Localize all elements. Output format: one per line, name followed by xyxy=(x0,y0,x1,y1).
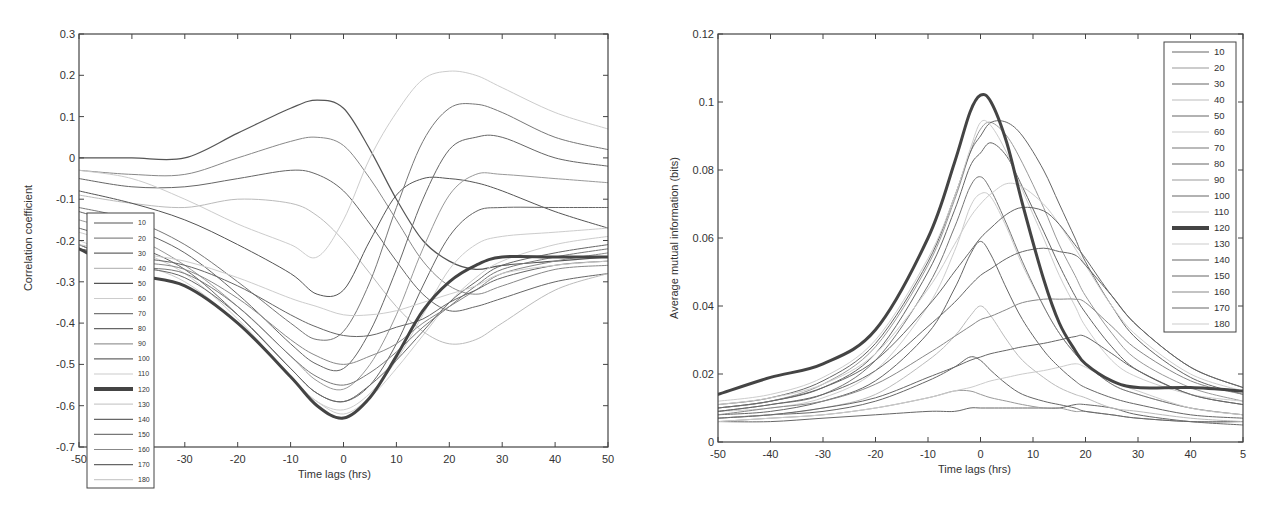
x-tick-label: 20 xyxy=(443,453,455,465)
x-tick-label: -50 xyxy=(710,448,726,460)
svg-text:170: 170 xyxy=(1214,302,1230,313)
svg-text:10: 10 xyxy=(1214,46,1225,57)
series-line-70 xyxy=(79,104,608,341)
svg-text:30: 30 xyxy=(138,250,146,257)
y-tick-label: -0.5 xyxy=(56,358,75,370)
svg-text:90: 90 xyxy=(138,340,146,347)
ticks: -50-40-30-20-10010203040500.020.040.060.… xyxy=(693,28,1246,460)
svg-text:40: 40 xyxy=(1214,94,1225,105)
svg-text:120: 120 xyxy=(138,386,150,393)
x-tick-label: 10 xyxy=(1027,448,1039,460)
y-tick-label: -0.1 xyxy=(56,193,75,205)
series-line-60 xyxy=(79,71,608,258)
x-tick-label: -30 xyxy=(177,453,193,465)
x-tick-label: -10 xyxy=(920,448,936,460)
x-tick-label: -10 xyxy=(283,453,299,465)
x-tick-label: -20 xyxy=(868,448,884,460)
y-tick-label: 0.3 xyxy=(60,28,75,40)
svg-text:160: 160 xyxy=(138,446,150,453)
x-tick-label: 0 xyxy=(977,448,983,460)
x-axis-label: Time lags (hrs) xyxy=(298,468,371,480)
y-tick-label: 0.08 xyxy=(693,164,714,176)
svg-text:70: 70 xyxy=(138,310,146,317)
series-line-100 xyxy=(79,207,608,402)
y-tick-label: -0.6 xyxy=(56,400,75,412)
x-tick-label: 0 xyxy=(340,453,346,465)
x-tick-label: 20 xyxy=(1079,448,1091,460)
y-tick-label: 0.1 xyxy=(699,96,714,108)
svg-text:150: 150 xyxy=(1214,270,1230,281)
x-tick-label: -30 xyxy=(815,448,831,460)
x-tick-label: 40 xyxy=(1184,448,1196,460)
svg-text:40: 40 xyxy=(138,265,146,272)
mutual-information-chart-panel: -50-40-30-20-10010203040500.020.040.060.… xyxy=(640,0,1272,507)
svg-text:20: 20 xyxy=(1214,62,1225,73)
svg-text:70: 70 xyxy=(1214,142,1225,153)
y-tick-label: 0 xyxy=(708,436,714,448)
x-tick-label: 30 xyxy=(1132,448,1144,460)
svg-text:60: 60 xyxy=(1214,126,1225,137)
svg-text:170: 170 xyxy=(138,461,150,468)
svg-text:90: 90 xyxy=(1214,174,1225,185)
y-tick-label: 0.2 xyxy=(60,69,75,81)
svg-text:180: 180 xyxy=(1214,318,1230,329)
svg-text:100: 100 xyxy=(138,355,150,362)
mutual-information-chart: -50-40-30-20-10010203040500.020.040.060.… xyxy=(640,0,1272,507)
svg-text:60: 60 xyxy=(138,295,146,302)
svg-text:50: 50 xyxy=(138,280,146,287)
x-tick-label: 10 xyxy=(390,453,402,465)
svg-text:80: 80 xyxy=(1214,158,1225,169)
svg-text:130: 130 xyxy=(138,401,150,408)
svg-text:110: 110 xyxy=(138,370,149,377)
y-tick-label: 0.04 xyxy=(693,300,714,312)
svg-text:140: 140 xyxy=(138,416,150,423)
svg-text:160: 160 xyxy=(1214,286,1230,297)
svg-text:180: 180 xyxy=(138,476,150,483)
x-axis-label: Time lags (hrs) xyxy=(938,463,1011,475)
y-tick-label: -0.2 xyxy=(56,235,75,247)
legend: 1020304050607080901001101201301401501601… xyxy=(1164,42,1236,332)
svg-text:140: 140 xyxy=(1214,254,1230,265)
y-axis-label: Average mutual information (bits) xyxy=(668,148,680,328)
x-tick-label: 50 xyxy=(602,453,614,465)
svg-text:30: 30 xyxy=(1214,78,1225,89)
svg-text:10: 10 xyxy=(138,219,146,226)
svg-text:80: 80 xyxy=(138,325,146,332)
svg-text:150: 150 xyxy=(138,431,150,438)
series-line-120 xyxy=(79,249,608,418)
x-tick-label: -20 xyxy=(230,453,246,465)
series-line-90 xyxy=(79,173,608,390)
svg-text:20: 20 xyxy=(138,235,146,242)
legend: 1020304050607080901001101201301401501601… xyxy=(87,213,154,488)
y-tick-label: 0 xyxy=(69,152,75,164)
svg-text:110: 110 xyxy=(1214,206,1229,217)
svg-text:130: 130 xyxy=(1214,238,1230,249)
series-line-40 xyxy=(79,195,608,344)
correlation-chart-panel: -50-40-30-20-1001020304050-0.7-0.6-0.5-0… xyxy=(0,0,640,507)
series-lines xyxy=(79,71,608,418)
x-tick-label: 40 xyxy=(549,453,561,465)
plot-area: -50-40-30-20-10010203040500.020.040.060.… xyxy=(693,28,1246,460)
y-tick-label: 0.02 xyxy=(693,368,714,380)
x-tick-label: -40 xyxy=(763,448,779,460)
x-tick-label: 30 xyxy=(496,453,508,465)
y-tick-label: 0.1 xyxy=(60,111,75,123)
correlation-chart: -50-40-30-20-1001020304050-0.7-0.6-0.5-0… xyxy=(0,0,640,507)
x-tick-label: 5 xyxy=(1240,448,1246,460)
y-tick-label: 0.12 xyxy=(693,28,714,40)
y-tick-label: -0.7 xyxy=(56,441,75,453)
series-line-170 xyxy=(718,335,1243,418)
y-tick-label: -0.3 xyxy=(56,276,75,288)
x-tick-label: -50 xyxy=(71,453,87,465)
y-tick-label: 0.06 xyxy=(693,232,714,244)
svg-text:120: 120 xyxy=(1214,222,1230,233)
series-line-160 xyxy=(79,249,608,365)
svg-text:50: 50 xyxy=(1214,110,1225,121)
y-tick-label: -0.4 xyxy=(56,317,75,329)
svg-text:100: 100 xyxy=(1214,190,1230,201)
y-axis-label: Correlation coefficient xyxy=(22,168,34,308)
